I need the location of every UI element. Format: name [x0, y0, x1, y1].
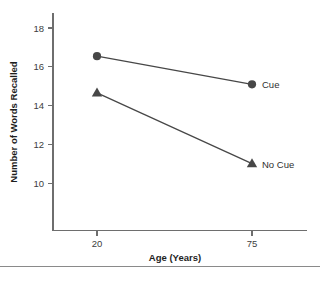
y-axis-title: Number of Words Recalled: [8, 61, 19, 182]
memory-recall-line-chart: 18 16 14 12 10 20 75 Age (Years) Number …: [0, 0, 320, 281]
series-no-cue-marker-age75: [247, 158, 257, 167]
series-cue-line: [97, 56, 252, 84]
series-no-cue-marker-age20: [92, 88, 102, 97]
series-no-cue: No Cue: [92, 88, 294, 170]
series-cue-label: Cue: [262, 79, 279, 90]
x-tick-label-20: 20: [92, 238, 103, 249]
y-tick-label-10: 10: [33, 178, 44, 189]
y-tick-label-12: 12: [33, 139, 44, 150]
x-axis-title: Age (Years): [149, 252, 201, 263]
y-axis-ticks: 18 16 14 12 10: [33, 23, 53, 189]
figure-panel: 18 16 14 12 10 20 75 Age (Years) Number …: [0, 0, 320, 281]
y-tick-label-16: 16: [33, 61, 44, 72]
series-cue: Cue: [93, 52, 280, 90]
y-tick-label-14: 14: [33, 100, 44, 111]
x-axis-ticks: 20 75: [92, 231, 258, 250]
series-cue-marker-age20: [93, 52, 101, 60]
x-tick-label-75: 75: [247, 238, 258, 249]
y-tick-label-18: 18: [33, 23, 44, 34]
series-no-cue-line: [97, 93, 252, 164]
series-cue-marker-age75: [248, 80, 256, 88]
series-no-cue-label: No Cue: [262, 159, 294, 170]
axes-group: [53, 13, 307, 231]
